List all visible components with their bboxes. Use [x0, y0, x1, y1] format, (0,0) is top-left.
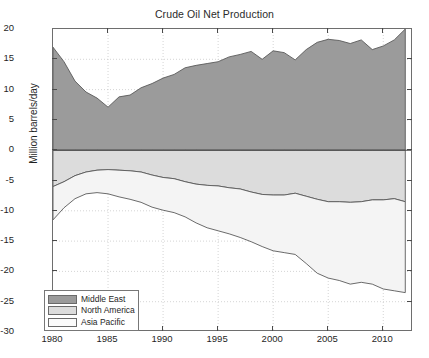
x-tick-mark — [327, 28, 328, 33]
y-tick-label: 0 — [0, 143, 14, 154]
y-tick-mark — [52, 119, 57, 120]
legend-swatch-icon — [48, 318, 77, 327]
y-tick-mark — [52, 58, 57, 59]
x-tick-label: 1985 — [77, 333, 137, 344]
y-tick-label: -5 — [0, 174, 14, 185]
x-tick-label: 2005 — [297, 333, 357, 344]
x-tick-mark — [162, 28, 163, 33]
y-tick-mark — [407, 270, 412, 271]
x-tick-mark — [217, 28, 218, 33]
y-axis-label: Million barrels/day — [28, 44, 39, 204]
y-tick-label: 10 — [0, 83, 14, 94]
x-tick-label: 2010 — [352, 333, 412, 344]
y-tick-mark — [52, 240, 57, 241]
legend-swatch-icon — [48, 306, 77, 315]
y-tick-label: 5 — [0, 113, 14, 124]
y-tick-mark — [407, 89, 412, 90]
x-tick-label: 1995 — [187, 333, 247, 344]
y-tick-mark — [407, 301, 412, 302]
x-tick-mark — [217, 326, 218, 331]
x-tick-mark — [162, 326, 163, 331]
y-tick-mark — [52, 149, 57, 150]
y-tick-mark — [407, 180, 412, 181]
chart-figure: Crude Oil Net Production Million barrels… — [0, 0, 429, 358]
plot-area — [52, 28, 412, 331]
y-tick-mark — [52, 270, 57, 271]
x-tick-label: 1990 — [132, 333, 192, 344]
y-tick-mark — [52, 210, 57, 211]
x-tick-mark — [327, 326, 328, 331]
y-tick-label: -30 — [0, 325, 14, 336]
y-tick-mark — [407, 210, 412, 211]
legend-swatch-icon — [48, 295, 77, 304]
y-tick-mark — [52, 180, 57, 181]
legend-item-label: Asia Pacific — [81, 318, 125, 327]
y-tick-mark — [407, 240, 412, 241]
x-tick-mark — [272, 28, 273, 33]
legend-item-label: North America — [81, 306, 135, 315]
x-tick-mark — [272, 326, 273, 331]
x-tick-mark — [382, 326, 383, 331]
y-tick-label: -15 — [0, 234, 14, 245]
y-tick-label: 20 — [0, 22, 14, 33]
y-tick-label: -25 — [0, 295, 14, 306]
legend-item[interactable]: Asia Pacific — [48, 317, 135, 328]
y-tick-label: -20 — [0, 264, 14, 275]
x-tick-mark — [382, 28, 383, 33]
y-tick-label: 15 — [0, 52, 14, 63]
chart-legend: Middle EastNorth AmericaAsia Pacific — [44, 290, 139, 331]
x-tick-label: 2000 — [242, 333, 302, 344]
x-tick-mark — [107, 28, 108, 33]
y-tick-mark — [407, 119, 412, 120]
legend-item[interactable]: Middle East — [48, 294, 135, 305]
y-tick-mark — [407, 149, 412, 150]
legend-item[interactable]: North America — [48, 305, 135, 316]
legend-item-label: Middle East — [81, 295, 125, 304]
x-tick-label: 1980 — [22, 333, 82, 344]
plot-svg — [53, 29, 412, 331]
chart-title: Crude Oil Net Production — [0, 8, 429, 20]
y-tick-mark — [407, 58, 412, 59]
y-tick-mark — [52, 89, 57, 90]
y-tick-label: -10 — [0, 204, 14, 215]
